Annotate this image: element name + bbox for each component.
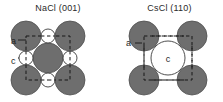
cscl-svg: c xyxy=(116,0,223,102)
nacl-unit-cell-diagram xyxy=(0,0,116,102)
crystal-structure-figure: NaCl (001) xyxy=(0,0,223,102)
panel-cscl: CsCl (110) xyxy=(116,0,223,102)
label-lattice-constant-a-cscl: a xyxy=(126,38,131,48)
anion-circle-center xyxy=(33,43,63,73)
label-cation-c-nacl: c xyxy=(11,56,16,66)
nacl-svg xyxy=(0,0,116,102)
cscl-unit-cell-diagram: c xyxy=(116,0,223,102)
label-cation-c-cscl: c xyxy=(166,54,171,64)
label-lattice-constant-a-nacl: a xyxy=(11,36,16,46)
panel-nacl: NaCl (001) xyxy=(0,0,116,102)
